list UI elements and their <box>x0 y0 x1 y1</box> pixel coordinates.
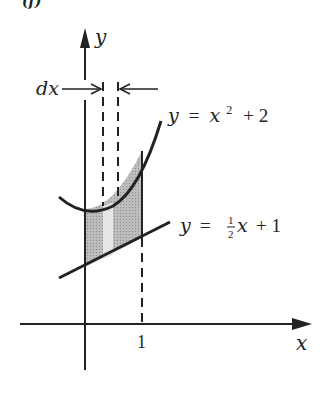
y-axis-arrow-icon <box>80 28 90 48</box>
x-axis-arrow-icon <box>292 318 312 330</box>
area-diagram: (f) y x 1 dx y = x 2 + 2 y = 1 2 x + 1 <box>0 0 323 393</box>
y-axis-label: y <box>94 25 107 49</box>
parabola-equation: y = x 2 + 2 <box>167 96 268 126</box>
line-equation: y = 1 2 x + 1 <box>179 214 281 240</box>
svg-text:x: x <box>237 214 248 236</box>
dx-label: dx <box>36 77 59 99</box>
x-axis-label: x <box>296 331 307 355</box>
svg-text:+ 1: + 1 <box>256 215 281 236</box>
panel-label: (f) <box>22 0 41 9</box>
svg-text:=: = <box>200 215 211 236</box>
svg-text:2: 2 <box>228 228 234 240</box>
svg-text:1: 1 <box>228 214 234 226</box>
x-tick-1: 1 <box>137 332 146 352</box>
svg-text:y: y <box>179 214 191 236</box>
